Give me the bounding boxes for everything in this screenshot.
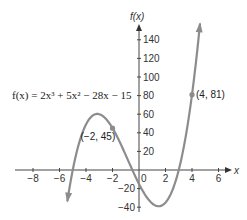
curve-arrow-down-icon: [65, 192, 72, 202]
x-tick-label: 2: [163, 173, 169, 184]
y-tick-label: 100: [143, 72, 160, 83]
y-tick-label: −40: [118, 202, 135, 213]
x-axis-arrow-icon: [225, 167, 232, 173]
function-formula: f(x) = 2x³ + 5x² − 28x − 15: [12, 89, 132, 102]
y-axis-arrow-icon: [136, 24, 142, 31]
y-tick-label: 80: [143, 90, 155, 101]
y-axis-label: f(x): [130, 11, 144, 22]
y-tick-label: 140: [143, 34, 160, 45]
function-graph: −8−6−4−20246−40−2020406080100120140 (−2,…: [0, 0, 247, 220]
point-label: (−2, 45): [81, 131, 116, 142]
x-axis-label: x: [233, 165, 240, 176]
y-tick-label: −20: [118, 183, 135, 194]
tick-marks: −8−6−4−20246−40−2020406080100120140: [27, 34, 221, 212]
x-tick-label: −6: [54, 173, 66, 184]
y-tick-label: 60: [143, 109, 155, 120]
x-tick-label: −8: [27, 173, 39, 184]
point-marker: [189, 92, 194, 97]
x-tick-label: 6: [216, 173, 222, 184]
x-tick-label: −4: [80, 173, 92, 184]
y-tick-label: 40: [143, 127, 155, 138]
point-label: (4, 81): [196, 89, 225, 100]
x-tick-label: 0: [141, 173, 147, 184]
y-tick-label: 120: [143, 53, 160, 64]
x-tick-label: 4: [189, 173, 195, 184]
point-marker: [110, 126, 115, 131]
y-tick-label: 20: [143, 146, 155, 157]
x-tick-label: −2: [107, 173, 119, 184]
